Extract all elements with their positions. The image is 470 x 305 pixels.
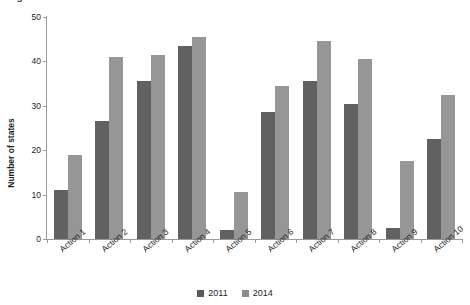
bar-group bbox=[213, 17, 255, 239]
bar-chart: Number of states 01020304050 Action 1Act… bbox=[0, 0, 470, 305]
bar-2014 bbox=[358, 59, 372, 239]
bar-group-inner bbox=[172, 17, 214, 239]
bar-2014 bbox=[109, 57, 123, 239]
bar-2011 bbox=[95, 121, 109, 239]
bar-2014 bbox=[317, 41, 331, 239]
x-axis-tick-mark bbox=[47, 239, 48, 243]
bar-group-inner bbox=[130, 17, 172, 239]
y-axis-tick-label: 10 bbox=[32, 190, 47, 200]
bar-group bbox=[338, 17, 380, 239]
legend-label: 2011 bbox=[208, 288, 227, 298]
x-axis-tick-mark bbox=[255, 239, 256, 243]
bar-2011 bbox=[178, 46, 192, 239]
y-axis-tick-label: 20 bbox=[32, 145, 47, 155]
bar-2014 bbox=[192, 37, 206, 239]
x-axis-tick-mark bbox=[296, 239, 297, 243]
x-axis-tick-mark bbox=[89, 239, 90, 243]
x-axis-tick-mark bbox=[379, 239, 380, 243]
bar-group-inner bbox=[213, 17, 255, 239]
y-axis-tick-label: 50 bbox=[32, 12, 47, 22]
bar-group-inner bbox=[255, 17, 297, 239]
bar-group bbox=[421, 17, 463, 239]
plot-area: 01020304050 bbox=[47, 17, 462, 239]
bar-2014 bbox=[275, 86, 289, 239]
legend-swatch-icon bbox=[197, 290, 204, 297]
bar-2011 bbox=[427, 139, 441, 239]
y-axis-tick-label: 40 bbox=[32, 56, 47, 66]
bar-2011 bbox=[137, 81, 151, 239]
bar-group bbox=[379, 17, 421, 239]
legend-item: 2011 bbox=[197, 288, 227, 298]
bar-2011 bbox=[386, 228, 400, 239]
bar-2011 bbox=[303, 81, 317, 239]
bar-group-inner bbox=[421, 17, 463, 239]
bar-group-inner bbox=[338, 17, 380, 239]
bar-group-inner bbox=[296, 17, 338, 239]
chart-legend: 20112014 bbox=[0, 288, 470, 298]
bar-group bbox=[130, 17, 172, 239]
bar-group bbox=[172, 17, 214, 239]
legend-label: 2014 bbox=[253, 288, 273, 298]
y-axis-title: Number of states bbox=[6, 118, 16, 187]
bar-group bbox=[47, 17, 89, 239]
bar-2014 bbox=[151, 55, 165, 239]
bar-group-inner bbox=[89, 17, 131, 239]
bar-group bbox=[89, 17, 131, 239]
x-axis-tick-mark bbox=[172, 239, 173, 243]
x-axis-tick-mark bbox=[213, 239, 214, 243]
legend-item: 2014 bbox=[242, 288, 273, 298]
bar-group bbox=[296, 17, 338, 239]
x-axis-tick-mark bbox=[338, 239, 339, 243]
bar-2011 bbox=[344, 104, 358, 239]
bar-2014 bbox=[441, 95, 455, 239]
x-axis-tick-mark bbox=[462, 239, 463, 243]
bar-group-inner bbox=[379, 17, 421, 239]
bar-2011 bbox=[54, 190, 68, 239]
y-axis-tick-label: 0 bbox=[36, 234, 47, 244]
legend-swatch-icon bbox=[242, 290, 249, 297]
y-axis-tick-label: 30 bbox=[32, 101, 47, 111]
bar-group-inner bbox=[47, 17, 89, 239]
bar-2011 bbox=[261, 112, 275, 239]
x-axis-tick-mark bbox=[130, 239, 131, 243]
bar-group bbox=[255, 17, 297, 239]
x-axis-tick-mark bbox=[421, 239, 422, 243]
